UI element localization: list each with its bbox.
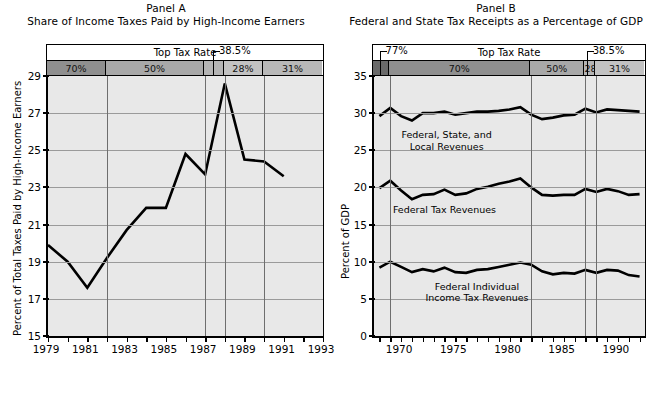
y-axis-label: 0 — [341, 331, 367, 341]
x-axis-label: 1979 — [26, 344, 66, 355]
x-axis-label: 1980 — [488, 344, 528, 355]
rate-band-31pct: 31% — [595, 61, 644, 75]
series-label: Federal Tax Revenues — [384, 204, 504, 216]
y-axis-tick — [369, 298, 375, 300]
y-axis-label: 10 — [341, 257, 367, 267]
panel-a-rate-header-label: Top Tax Rate — [47, 45, 323, 60]
rate-band-50pct: 50% — [106, 61, 204, 75]
y-axis-tick — [43, 261, 49, 263]
panel-a-title-main: Panel A — [146, 2, 186, 14]
x-axis-label: 1983 — [105, 344, 145, 355]
x-axis-tick — [401, 336, 402, 342]
y-axis-tick — [369, 112, 375, 114]
series-line — [379, 262, 639, 277]
x-axis-tick — [477, 338, 478, 342]
x-axis-tick — [542, 338, 543, 342]
x-axis-tick — [455, 336, 456, 342]
two-panel-figure: Panel A Share of Income Taxes Paid by Hi… — [0, 0, 660, 403]
x-axis-tick — [444, 338, 445, 342]
panel-b-chart-area: Federal, State, andLocal RevenuesFederal… — [372, 76, 646, 338]
x-axis-tick — [553, 338, 554, 342]
x-axis-label: 1987 — [183, 344, 223, 355]
gridline-horizontal — [48, 225, 323, 226]
x-axis-tick — [607, 338, 608, 342]
panel-a-callout-leader — [213, 51, 214, 76]
x-axis-tick — [466, 338, 467, 342]
y-axis-tick — [369, 335, 375, 337]
panel-b-plot: Top Tax Rate 70%50%28%31% 77% 38.5% Fede… — [372, 44, 646, 356]
y-axis-tick — [369, 75, 375, 77]
panel-b-title-main: Panel B — [476, 2, 516, 14]
panel-b-title: Panel B Federal and State Tax Receipts a… — [332, 2, 660, 28]
x-axis-tick — [127, 336, 128, 342]
y-axis-label: 17 — [15, 294, 41, 304]
x-axis-tick — [585, 338, 586, 342]
gridline-horizontal — [374, 262, 645, 263]
x-axis-label: 1985 — [542, 344, 582, 355]
panel-b-callout-385-elbow — [587, 51, 594, 52]
y-axis-label: 15 — [15, 331, 41, 341]
y-axis-tick — [43, 112, 49, 114]
y-axis-tick — [43, 149, 49, 151]
x-axis-label: 1990 — [596, 344, 636, 355]
rate-band-unlabeled-2 — [204, 61, 224, 75]
x-axis-tick — [323, 336, 324, 342]
y-axis-label: 5 — [341, 294, 367, 304]
panel-b-callout-385: 38.5% — [593, 45, 625, 56]
panel-a-rate-bands: 70%50%28%31% — [47, 60, 323, 75]
panel-a-chart-area — [46, 76, 324, 338]
gridline-horizontal — [48, 299, 323, 300]
y-axis-label: 19 — [15, 257, 41, 267]
x-axis-tick — [303, 338, 304, 342]
y-axis-label: 21 — [15, 220, 41, 230]
x-axis-tick — [68, 338, 69, 342]
panel-a: Panel A Share of Income Taxes Paid by Hi… — [0, 0, 332, 403]
y-axis-label: 30 — [341, 108, 367, 118]
y-axis-tick — [369, 186, 375, 188]
x-axis-tick — [166, 336, 167, 342]
y-axis-label: 23 — [15, 182, 41, 192]
rate-band-70pct: 70% — [47, 61, 106, 75]
panel-a-callout-elbow — [213, 51, 220, 52]
x-axis-tick — [488, 338, 489, 342]
panel-a-title: Panel A Share of Income Taxes Paid by Hi… — [0, 2, 332, 28]
x-axis-label: 1975 — [433, 344, 473, 355]
y-axis-tick — [43, 298, 49, 300]
y-axis-tick — [43, 186, 49, 188]
y-axis-label: 27 — [15, 108, 41, 118]
x-axis-tick — [564, 336, 565, 342]
gridline-vertical — [225, 76, 226, 336]
gridline-vertical — [596, 76, 597, 336]
gridline-horizontal — [374, 225, 645, 226]
y-axis-tick — [369, 261, 375, 263]
x-axis-tick — [423, 338, 424, 342]
panel-a-subtitle: Share of Income Taxes Paid by High-Incom… — [0, 15, 332, 28]
panel-b-rate-bands: 70%50%28%31% — [373, 60, 645, 75]
rate-band-31pct: 31% — [263, 61, 322, 75]
x-axis-tick — [499, 338, 500, 342]
gridline-vertical — [585, 76, 586, 336]
panel-b: Panel B Federal and State Tax Receipts a… — [332, 0, 660, 403]
panel-b-callout-77: 77% — [386, 45, 408, 56]
rate-band-28pct: 28% — [224, 61, 263, 75]
series-label: Federal, State, andLocal Revenues — [387, 129, 507, 152]
x-axis-tick — [379, 338, 380, 342]
panel-a-callout-385: 38.5% — [219, 45, 251, 56]
panel-a-rate-header: Top Tax Rate 70%50%28%31% — [46, 44, 324, 76]
x-axis-tick — [575, 338, 576, 342]
gridline-horizontal — [374, 113, 645, 114]
y-axis-label: 35 — [341, 71, 367, 81]
y-axis-label: 29 — [15, 71, 41, 81]
y-axis-tick — [43, 224, 49, 226]
x-axis-tick — [640, 338, 641, 342]
gridline-horizontal — [48, 150, 323, 151]
panel-b-y-axis-title: Percent of GDP — [340, 204, 351, 279]
gridline-vertical — [205, 76, 206, 336]
x-axis-tick — [87, 336, 88, 342]
x-axis-tick — [107, 338, 108, 342]
x-axis-tick — [618, 336, 619, 342]
x-axis-label: 1991 — [262, 344, 302, 355]
x-axis-tick — [596, 338, 597, 342]
y-axis-label: 15 — [341, 220, 367, 230]
x-axis-tick — [186, 338, 187, 342]
